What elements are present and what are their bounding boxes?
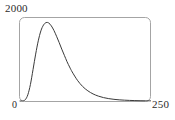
plot-area	[0, 0, 175, 120]
chart-container: 2000 0 250	[0, 0, 175, 120]
x-axis-max-label: 250	[152, 99, 169, 110]
y-axis-max-label: 2000	[5, 3, 28, 14]
origin-label: 0	[12, 99, 17, 110]
distribution-curve	[20, 22, 151, 101]
